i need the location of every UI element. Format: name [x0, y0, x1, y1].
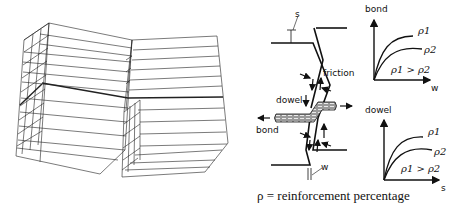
dowel-graph: dowel ρ1 ρ2 ρ1 > ρ2 s	[365, 105, 446, 193]
svg-text:ρ2: ρ2	[423, 44, 436, 55]
right-block	[122, 36, 228, 177]
svg-text:w: w	[431, 83, 438, 93]
friction-label: friction	[323, 68, 355, 78]
mesh-blocks	[16, 23, 228, 177]
force-arrows	[258, 74, 352, 152]
left-block	[16, 23, 132, 174]
svg-text:ρ1 > ρ2: ρ1 > ρ2	[400, 163, 440, 174]
svg-text:ρ1: ρ1	[417, 25, 430, 36]
caption: ρ = reinforcement percentage	[257, 188, 410, 203]
bond-label: bond	[256, 125, 279, 135]
svg-text:ρ1 > ρ2: ρ1 > ρ2	[390, 64, 430, 75]
slip-label: s	[295, 9, 300, 19]
svg-text:s: s	[441, 183, 446, 193]
dowel-label: dowel	[276, 95, 303, 105]
bond-axis-label: bond	[365, 4, 388, 14]
svg-text:ρ1: ρ1	[427, 126, 440, 137]
dowel-axis-label: dowel	[365, 105, 392, 115]
width-label: w	[321, 162, 328, 172]
bond-graph: bond ρ1 ρ2 ρ1 > ρ2 w	[365, 4, 438, 93]
svg-text:ρ2: ρ2	[433, 146, 446, 157]
